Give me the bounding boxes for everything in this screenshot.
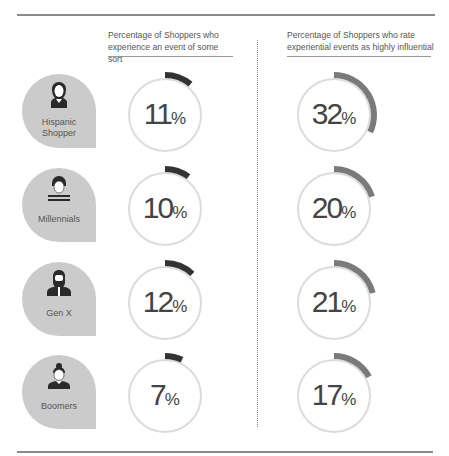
header-influential: Percentage of Shoppers who rate experien…: [287, 29, 435, 53]
top-rule: [17, 14, 435, 16]
gauge-experience: 10%: [121, 165, 209, 253]
segment-label-line1: Gen X: [22, 308, 96, 319]
gauge-number: 21: [312, 285, 341, 318]
segment-label: Millennials: [22, 214, 96, 225]
percent-sign: %: [341, 203, 356, 222]
segment-label-line1: Hispanic: [22, 117, 96, 128]
segment-badge-millennials: Millennials: [22, 168, 96, 242]
percent-sign: %: [171, 109, 186, 128]
gauge-value: 12%: [121, 285, 209, 319]
percent-sign: %: [341, 297, 356, 316]
segment-label-line2: Shopper: [22, 128, 96, 139]
percent-sign: %: [172, 297, 187, 316]
gauge-number: 12: [143, 285, 172, 318]
gauge-number: 7: [150, 378, 165, 411]
gauge-number: 32: [312, 97, 341, 130]
gauge-value: 11%: [121, 97, 209, 131]
segment-label-line1: Boomers: [22, 401, 96, 412]
gauge-value: 17%: [290, 378, 378, 412]
gauge-value: 20%: [290, 191, 378, 225]
percent-sign: %: [172, 203, 187, 222]
gauge-number: 11: [144, 97, 171, 130]
gauge-experience: 11%: [121, 71, 209, 159]
gauge-number: 17: [312, 378, 341, 411]
percent-sign: %: [341, 390, 356, 409]
gauge-value: 32%: [290, 97, 378, 131]
segment-badge-gen-x: Gen X: [22, 262, 96, 336]
segment-label: HispanicShopper: [22, 117, 96, 139]
header-experience-underline: [108, 56, 233, 57]
column-divider: [257, 40, 258, 427]
bottom-rule: [17, 451, 433, 453]
gauge-value: 7%: [121, 378, 209, 412]
gauge-influential: 32%: [290, 71, 378, 159]
gauge-number: 10: [143, 191, 172, 224]
segment-label: Gen X: [22, 308, 96, 319]
gauge-influential: 17%: [290, 352, 378, 440]
segment-label: Boomers: [22, 401, 96, 412]
percent-sign: %: [165, 390, 180, 409]
gauge-experience: 7%: [121, 352, 209, 440]
gauge-value: 10%: [121, 191, 209, 225]
segment-label-line1: Millennials: [22, 214, 96, 225]
gauge-influential: 20%: [290, 165, 378, 253]
segment-badge-boomers: Boomers: [22, 355, 96, 429]
gauge-influential: 21%: [290, 259, 378, 347]
segment-badge-hispanic-shopper: HispanicShopper: [22, 74, 96, 148]
gauge-experience: 12%: [121, 259, 209, 347]
percent-sign: %: [341, 109, 356, 128]
header-influential-underline: [287, 56, 431, 57]
gauge-value: 21%: [290, 285, 378, 319]
header-experience: Percentage of Shoppers who experience an…: [108, 29, 233, 65]
gauge-number: 20: [312, 191, 341, 224]
